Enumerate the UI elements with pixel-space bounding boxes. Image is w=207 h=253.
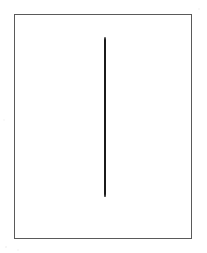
vertical-line-stroke: [104, 37, 106, 197]
figure-canvas: [0, 0, 207, 253]
rectangular-border: [14, 14, 192, 239]
